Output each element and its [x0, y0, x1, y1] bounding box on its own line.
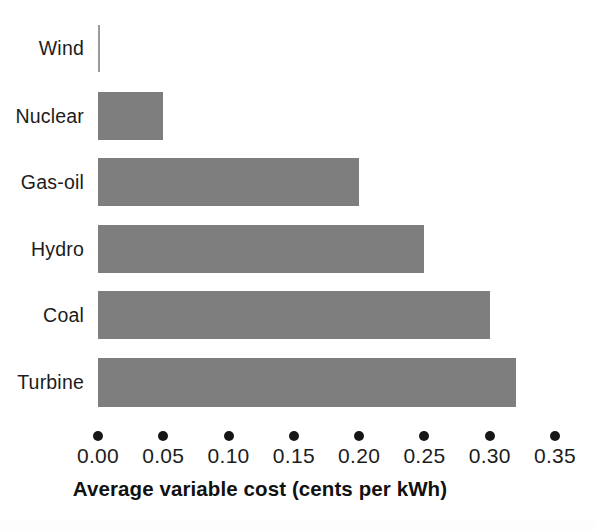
- bar-row: Nuclear: [0, 92, 595, 140]
- x-tick-dot: [224, 431, 234, 441]
- bar-turbine: [98, 358, 516, 407]
- bar-row: Gas-oil: [0, 158, 595, 206]
- category-label-gas-oil: Gas-oil: [0, 171, 84, 194]
- bar-track: [84, 225, 595, 273]
- bar-hydro: [98, 225, 424, 273]
- bar-wind: [98, 25, 100, 72]
- bar-track: [84, 92, 595, 140]
- bar-row: Wind: [0, 25, 595, 72]
- x-axis-tick-labels: 0.000.050.100.150.200.250.300.35: [0, 444, 595, 474]
- bar-chart: WindNuclearGas-oilHydroCoalTurbine 0.000…: [0, 0, 595, 530]
- bar-row: Coal: [0, 291, 595, 339]
- category-label-nuclear: Nuclear: [0, 105, 84, 128]
- bar-track: [84, 158, 595, 206]
- x-tick-label: 0.35: [515, 444, 595, 468]
- x-tick-dot: [289, 431, 299, 441]
- x-tick-dot: [158, 431, 168, 441]
- bar-gas-oil: [98, 158, 359, 206]
- category-label-coal: Coal: [0, 304, 84, 327]
- bar-row: Hydro: [0, 225, 595, 273]
- bar-nuclear: [98, 92, 163, 140]
- bar-track: [84, 25, 595, 72]
- x-tick-dot: [93, 431, 103, 441]
- x-tick-dot: [419, 431, 429, 441]
- plot-area: WindNuclearGas-oilHydroCoalTurbine: [0, 0, 595, 425]
- x-tick-dot: [550, 431, 560, 441]
- bar-row: Turbine: [0, 358, 595, 407]
- page-bottom-edge: [0, 520, 595, 530]
- bar-track: [84, 358, 595, 407]
- x-axis: 0.000.050.100.150.200.250.300.35 Average…: [0, 425, 595, 530]
- x-axis-title: Average variable cost (cents per kWh): [0, 477, 520, 501]
- x-tick-dot: [354, 431, 364, 441]
- x-tick-dot: [485, 431, 495, 441]
- category-label-wind: Wind: [0, 37, 84, 60]
- bar-coal: [98, 291, 490, 339]
- category-label-hydro: Hydro: [0, 238, 84, 261]
- bar-track: [84, 291, 595, 339]
- category-label-turbine: Turbine: [0, 371, 84, 394]
